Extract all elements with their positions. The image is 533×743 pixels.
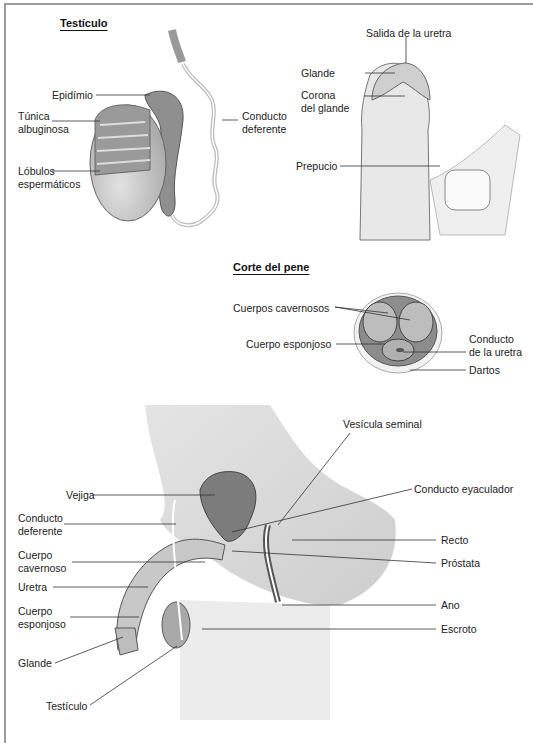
label-corpus-spongiosum-line1: Cuerpo [18, 605, 52, 617]
penis-external-drawing [360, 63, 520, 240]
label-glans-bottom: Glande [18, 657, 52, 669]
label-testicle-bottom: Testículo [46, 700, 87, 712]
label-foreskin: Prepucio [296, 160, 337, 172]
label-rectum: Recto [441, 534, 468, 546]
label-lobules-line1: Lóbulos [18, 165, 55, 177]
label-prostate: Próstata [441, 557, 480, 569]
label-corpus-cavernosum-line2: cavernoso [18, 562, 66, 574]
label-urethra-duct-line1: Conducto [469, 333, 514, 345]
label-anus: Ano [441, 599, 460, 611]
section-panel-title: Corte del pene [233, 261, 309, 273]
label-dartos: Dartos [469, 364, 500, 376]
label-ejaculatory-duct: Conducto eyaculador [414, 483, 513, 495]
label-seminal-vesicle: Vesícula seminal [343, 418, 422, 430]
label-corpus-cavernosum-line1: Cuerpo [18, 549, 52, 561]
label-corona-line1: Corona [301, 89, 335, 101]
label-urethral-opening: Salida de la uretra [366, 27, 451, 39]
label-vas-deferens-top-line2: deferente [242, 123, 286, 135]
label-urethra-duct-line2: de la uretra [469, 346, 522, 358]
label-corona-line2: del glande [301, 102, 349, 114]
testicle-panel-title: Testículo [60, 17, 107, 29]
sagittal-drawing [115, 405, 396, 720]
label-tunica-line2: albuginosa [18, 123, 69, 135]
label-vas-deferens-top-line1: Conducto [242, 110, 287, 122]
label-glans-top: Glande [301, 67, 335, 79]
label-tunica-line1: Túnica [18, 110, 50, 122]
penis-section-drawing [354, 293, 442, 373]
label-scrotum: Escroto [441, 623, 477, 635]
label-spongy-body: Cuerpo esponjoso [246, 338, 331, 350]
label-epididymis: Epidímio [52, 89, 93, 101]
label-vas-deferens-line1: Conducto [18, 512, 63, 524]
label-urethra: Uretra [18, 581, 47, 593]
label-lobules-line2: espermáticos [18, 178, 80, 190]
testicle-drawing [90, 30, 218, 225]
label-cavernous-bodies: Cuerpos cavernosos [233, 302, 329, 314]
label-bladder: Vejiga [66, 489, 95, 501]
label-corpus-spongiosum-line2: esponjoso [18, 618, 66, 630]
label-vas-deferens-line2: deferente [18, 525, 62, 537]
